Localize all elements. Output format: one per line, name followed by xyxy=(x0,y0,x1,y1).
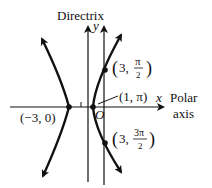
hyperbola-diagram: Directrix y x Polar axis O (−3, 0) (1, π… xyxy=(0,0,212,188)
upper-point-label: ( 3, π 2 ) xyxy=(112,55,152,80)
point-lower xyxy=(102,140,108,146)
right-vertex-label: (1, π) xyxy=(119,89,147,104)
y-axis-label: y xyxy=(91,18,99,33)
leader-line xyxy=(98,96,118,104)
hyperbola-left-branch xyxy=(42,39,69,107)
lower-point-label: ( 3, 3π 2 ) xyxy=(112,127,155,151)
svg-text:(: ( xyxy=(112,58,118,79)
point-left-vertex xyxy=(66,104,72,110)
svg-text:(: ( xyxy=(112,129,118,150)
svg-text:2: 2 xyxy=(136,70,141,80)
svg-text:3,: 3, xyxy=(119,60,129,75)
left-vertex-label: (−3, 0) xyxy=(20,110,56,125)
svg-text:): ) xyxy=(146,58,152,79)
origin-label: O xyxy=(95,107,105,122)
svg-text:3,: 3, xyxy=(119,131,129,146)
x-axis-label: x xyxy=(155,90,162,105)
polar-axis-label-2: axis xyxy=(173,106,194,121)
point-upper xyxy=(102,67,108,73)
svg-text:2: 2 xyxy=(138,141,143,151)
polar-axis-label-1: Polar xyxy=(170,90,198,105)
svg-text:3π: 3π xyxy=(134,127,144,138)
svg-text:): ) xyxy=(149,129,155,150)
svg-text:π: π xyxy=(135,55,141,67)
